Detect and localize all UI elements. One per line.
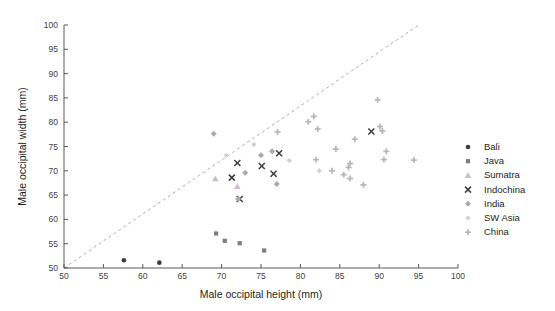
data-point — [212, 175, 218, 181]
x-axis-tick-label: 60 — [138, 271, 148, 281]
data-point — [383, 148, 389, 154]
data-point — [235, 196, 241, 202]
data-point — [269, 148, 275, 154]
data-point — [329, 168, 335, 174]
data-point — [229, 175, 235, 181]
x-axis-title: Male occipital height (mm) — [200, 288, 323, 300]
data-point — [317, 168, 322, 173]
legend-item-bali[interactable]: Bali — [466, 141, 500, 152]
data-point — [238, 241, 242, 245]
data-point — [259, 163, 265, 169]
x-axis-tick-label: 75 — [256, 271, 266, 281]
reference-line-group — [64, 25, 419, 268]
y-axis-tick-label: 100 — [44, 20, 58, 30]
legend-marker-x-icon — [465, 187, 471, 193]
x-axis-tick-label: 90 — [374, 271, 384, 281]
data-point — [375, 97, 381, 103]
legend-marker-triangle-icon — [465, 172, 471, 178]
x-axis-tick-label: 100 — [451, 271, 465, 281]
data-point — [251, 142, 256, 147]
x-axis-tick-label: 85 — [335, 271, 345, 281]
legend-label: Indochina — [484, 184, 526, 195]
y-axis-tick-label: 90 — [49, 69, 59, 79]
series-java — [214, 231, 266, 252]
legend-item-sumatra[interactable]: Sumatra — [465, 169, 521, 180]
series-china — [275, 97, 417, 188]
data-point — [347, 176, 353, 182]
legend-label: Sumatra — [484, 169, 521, 180]
series-sw-asia — [224, 142, 322, 173]
legend-marker-diamond-icon — [465, 201, 471, 207]
legend-label: SW Asia — [484, 212, 521, 223]
y-axis-tick-label: 80 — [49, 117, 59, 127]
axes-group: 5055606570758085909510050556065707580859… — [44, 20, 466, 281]
legend-marker-plus-icon — [465, 229, 471, 235]
x-axis-tick-label: 50 — [59, 271, 69, 281]
data-point — [341, 172, 347, 178]
x-axis-tick-label: 80 — [296, 271, 306, 281]
data-point — [311, 113, 317, 119]
legend-item-china[interactable]: China — [465, 226, 510, 237]
x-axis-tick-label: 70 — [217, 271, 227, 281]
data-point — [258, 152, 264, 158]
data-point — [224, 153, 229, 158]
data-point — [242, 170, 248, 176]
legend-label: India — [484, 198, 505, 209]
data-points-group — [122, 97, 417, 265]
identity-reference-line — [64, 25, 419, 268]
data-point — [275, 129, 281, 135]
data-point — [360, 182, 366, 188]
series-bali — [122, 258, 162, 265]
y-axis-tick-label: 65 — [49, 190, 59, 200]
legend-label: Java — [484, 155, 505, 166]
legend-marker-small-diamond-icon — [465, 215, 470, 220]
scatter-plot-figure: 5055606570758085909510050556065707580859… — [0, 0, 555, 311]
data-point — [223, 239, 227, 243]
x-axis-tick-label: 95 — [414, 271, 424, 281]
chart-canvas: 5055606570758085909510050556065707580859… — [0, 0, 555, 311]
y-axis-tick-label: 95 — [49, 44, 59, 54]
data-point — [234, 160, 240, 166]
data-point — [333, 146, 339, 152]
data-point — [234, 183, 240, 189]
data-point — [214, 231, 218, 235]
x-axis-tick-label: 55 — [99, 271, 109, 281]
data-point — [274, 181, 280, 187]
data-point — [262, 248, 266, 252]
series-india — [211, 131, 280, 202]
data-point — [368, 128, 374, 134]
y-axis-tick-label: 70 — [49, 166, 59, 176]
data-point — [305, 119, 311, 125]
y-axis-tick-label: 85 — [49, 93, 59, 103]
legend-item-sw-asia[interactable]: SW Asia — [465, 212, 520, 223]
legend-marker-square-icon — [466, 159, 470, 163]
data-point — [315, 126, 321, 132]
y-axis-tick-label: 50 — [49, 263, 59, 273]
legend-marker-circle-icon — [466, 145, 471, 150]
legend-label: Bali — [484, 141, 500, 152]
data-point — [122, 258, 127, 263]
data-point — [381, 157, 387, 163]
legend: BaliJavaSumatraIndochinaIndiaSW AsiaChin… — [465, 141, 526, 237]
data-point — [276, 150, 282, 156]
data-point — [157, 260, 162, 265]
legend-item-java[interactable]: Java — [466, 155, 505, 166]
y-axis-tick-label: 75 — [49, 142, 59, 152]
y-axis-tick-label: 60 — [49, 214, 59, 224]
legend-item-indochina[interactable]: Indochina — [465, 184, 526, 195]
data-point — [411, 157, 417, 163]
data-point — [271, 171, 277, 177]
data-point — [211, 131, 217, 137]
y-axis-title: Male occipital width (mm) — [16, 87, 28, 205]
legend-label: China — [484, 226, 510, 237]
legend-item-india[interactable]: India — [465, 198, 505, 209]
data-point — [287, 158, 292, 163]
data-point — [352, 136, 358, 142]
x-axis-tick-label: 65 — [177, 271, 187, 281]
y-axis-tick-label: 55 — [49, 239, 59, 249]
data-point — [313, 157, 319, 163]
series-sumatra — [212, 175, 240, 189]
